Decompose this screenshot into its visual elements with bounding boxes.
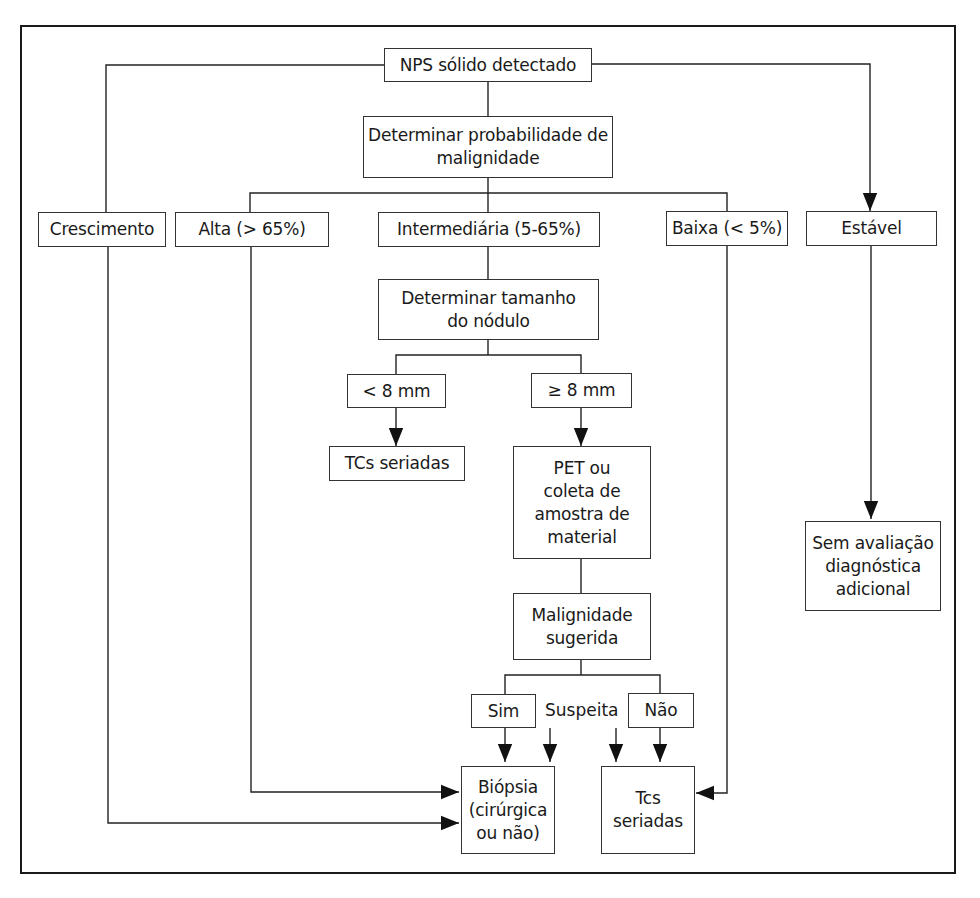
node-intermediate: Intermediária (5-65%) xyxy=(378,212,600,247)
node-low-label: Baixa (< 5%) xyxy=(672,217,782,240)
node-yes: Sim xyxy=(471,694,536,728)
node-ge8: ≥ 8 mm xyxy=(531,373,632,408)
node-pet: PET ou coleta de amostra de material xyxy=(513,446,651,559)
node-high: Alta (> 65%) xyxy=(175,212,329,247)
node-size: Determinar tamanho do nódulo xyxy=(378,279,599,340)
node-pet-label: PET ou coleta de amostra de material xyxy=(528,457,636,549)
node-no-evaluation: Sem avaliação diagnóstica adicional xyxy=(805,521,941,611)
node-probability: Determinar probabilidade de malignidade xyxy=(363,116,613,178)
node-no: Não xyxy=(628,693,694,728)
node-biopsy: Biópsia (cirúrgica ou não) xyxy=(461,766,555,854)
node-malignancy: Malignidade sugerida xyxy=(513,593,651,660)
node-no-evaluation-label: Sem avaliação diagnóstica adicional xyxy=(810,532,936,601)
node-serial-ct-label: Tcs seriadas xyxy=(613,787,683,833)
node-start: NPS sólido detectado xyxy=(384,48,592,82)
node-serial-ct: Tcs seriadas xyxy=(601,766,695,854)
node-suspect-label: Suspeita xyxy=(545,699,618,722)
node-serial-ct-small: TCs seriadas xyxy=(329,446,465,481)
node-lt8: < 8 mm xyxy=(347,374,446,408)
node-intermediate-label: Intermediária (5-65%) xyxy=(397,218,581,241)
node-high-label: Alta (> 65%) xyxy=(198,218,305,241)
node-stable-label: Estável xyxy=(841,217,902,240)
node-start-label: NPS sólido detectado xyxy=(400,54,576,77)
node-yes-label: Sim xyxy=(488,700,519,723)
node-growth: Crescimento xyxy=(38,212,166,247)
node-ge8-label: ≥ 8 mm xyxy=(548,379,616,402)
node-no-label: Não xyxy=(645,699,678,722)
node-growth-label: Crescimento xyxy=(50,218,155,241)
node-low: Baixa (< 5%) xyxy=(666,211,788,246)
node-probability-label: Determinar probabilidade de malignidade xyxy=(368,124,608,170)
node-size-label: Determinar tamanho do nódulo xyxy=(399,287,578,333)
node-malignancy-label: Malignidade sugerida xyxy=(518,604,646,650)
node-lt8-label: < 8 mm xyxy=(363,380,431,403)
node-biopsy-label: Biópsia (cirúrgica ou não) xyxy=(466,776,550,845)
node-serial-ct-small-label: TCs seriadas xyxy=(345,452,450,475)
node-stable: Estável xyxy=(806,211,937,246)
